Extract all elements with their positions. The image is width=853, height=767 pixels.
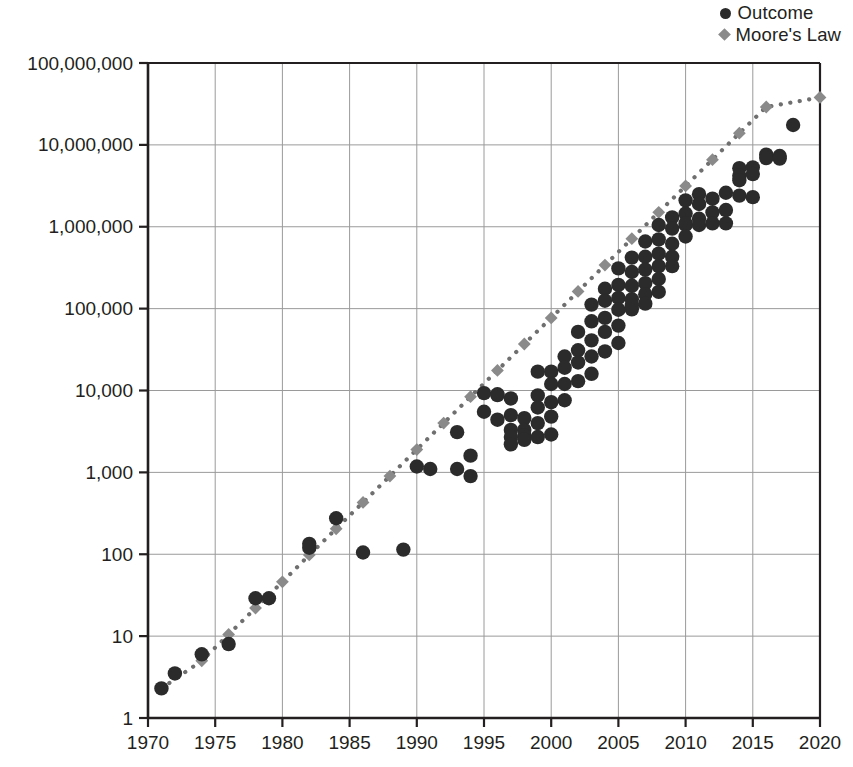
outcome-data-point <box>611 261 625 275</box>
outcome-data-point <box>531 364 545 378</box>
outcome-data-point <box>531 430 545 444</box>
outcome-data-point <box>665 259 679 273</box>
outcome-data-point <box>652 246 666 260</box>
x-tick-label: 1970 <box>127 732 169 753</box>
outcome-data-point <box>329 511 343 525</box>
outcome-data-point <box>557 377 571 391</box>
outcome-data-point <box>611 336 625 350</box>
outcome-data-point <box>584 367 598 381</box>
outcome-data-point <box>544 427 558 441</box>
outcome-data-point <box>477 386 491 400</box>
outcome-data-point <box>531 416 545 430</box>
outcome-data-point <box>625 279 639 293</box>
outcome-data-point <box>571 374 585 388</box>
outcome-data-point <box>531 400 545 414</box>
outcome-data-point <box>154 681 168 695</box>
scatter-chart: Outcome Moore's Law 1101001,00010,000100… <box>0 0 853 767</box>
outcome-data-point <box>302 541 316 555</box>
outcome-data-point <box>638 262 652 276</box>
outcome-data-point <box>625 250 639 264</box>
outcome-data-point <box>638 234 652 248</box>
outcome-data-point <box>705 216 719 230</box>
outcome-data-point <box>504 408 518 422</box>
outcome-data-point <box>652 272 666 286</box>
outcome-data-point <box>195 647 209 661</box>
outcome-data-point <box>584 297 598 311</box>
outcome-data-point <box>477 405 491 419</box>
outcome-data-point <box>786 118 800 132</box>
outcome-data-point <box>544 409 558 423</box>
outcome-data-point <box>759 151 773 165</box>
outcome-data-point <box>221 637 235 651</box>
y-tick-label: 10,000,000 <box>38 134 133 155</box>
outcome-data-point <box>652 285 666 299</box>
outcome-data-point <box>410 459 424 473</box>
outcome-data-point <box>262 591 276 605</box>
x-tick-label: 1975 <box>194 732 236 753</box>
moores-law-data-point <box>814 91 827 104</box>
x-tick-label: 2015 <box>732 732 774 753</box>
outcome-data-point <box>705 192 719 206</box>
outcome-data-point <box>678 216 692 230</box>
y-tick-label: 1,000 <box>85 462 133 483</box>
outcome-data-point <box>678 193 692 207</box>
plot-area: 1101001,00010,000100,0001,000,00010,000,… <box>0 0 853 767</box>
outcome-data-point <box>396 542 410 556</box>
outcome-data-point <box>490 412 504 426</box>
moores-law-data-point <box>572 285 585 298</box>
outcome-data-point <box>557 360 571 374</box>
outcome-data-point <box>611 318 625 332</box>
outcome-data-point <box>463 469 477 483</box>
outcome-data-point <box>692 218 706 232</box>
y-tick-label: 100 <box>101 544 133 565</box>
x-tick-label: 2005 <box>597 732 639 753</box>
outcome-data-point <box>719 216 733 230</box>
outcome-data-point <box>463 448 477 462</box>
y-tick-label: 1,000,000 <box>48 216 133 237</box>
outcome-data-point <box>571 325 585 339</box>
outcome-data-point <box>611 278 625 292</box>
outcome-data-point <box>746 190 760 204</box>
x-tick-label: 2010 <box>664 732 706 753</box>
outcome-data-point <box>557 393 571 407</box>
x-tick-label: 2020 <box>799 732 841 753</box>
outcome-data-point <box>504 437 518 451</box>
outcome-data-point <box>490 387 504 401</box>
outcome-data-point <box>517 433 531 447</box>
outcome-data-point <box>598 344 612 358</box>
y-tick-label: 10 <box>112 626 133 647</box>
outcome-data-point <box>652 259 666 273</box>
y-axis-tick-labels: 1101001,00010,000100,0001,000,00010,000,… <box>27 53 133 729</box>
x-tick-label: 2000 <box>530 732 572 753</box>
y-tick-label: 10,000 <box>75 380 133 401</box>
outcome-data-point <box>625 265 639 279</box>
outcome-data-point <box>598 325 612 339</box>
outcome-data-point <box>652 232 666 246</box>
outcome-data-point <box>638 250 652 264</box>
outcome-data-point <box>168 666 182 680</box>
outcome-data-point <box>652 218 666 232</box>
x-axis-tick-labels: 1970197519801985199019952000200520102015… <box>127 732 841 753</box>
outcome-data-point <box>584 349 598 363</box>
moores-law-data-point <box>599 259 612 272</box>
y-tick-label: 100,000 <box>64 298 133 319</box>
outcome-data-point <box>584 333 598 347</box>
outcome-data-point <box>665 221 679 235</box>
moores-law-data-point <box>545 312 558 325</box>
outcome-data-point <box>544 377 558 391</box>
outcome-data-point <box>356 545 370 559</box>
y-tick-label: 1 <box>122 708 133 729</box>
x-tick-label: 1995 <box>463 732 505 753</box>
outcome-data-point <box>665 237 679 251</box>
outcome-data-point <box>692 197 706 211</box>
outcome-data-point <box>732 173 746 187</box>
outcome-data-point <box>746 167 760 181</box>
outcome-data-point <box>638 296 652 310</box>
outcome-data-point <box>772 151 786 165</box>
outcome-data-point <box>248 591 262 605</box>
outcome-data-point <box>423 462 437 476</box>
outcome-data-point <box>504 391 518 405</box>
outcome-data-point <box>625 298 639 312</box>
x-tick-label: 1985 <box>328 732 370 753</box>
x-tick-label: 1990 <box>396 732 438 753</box>
